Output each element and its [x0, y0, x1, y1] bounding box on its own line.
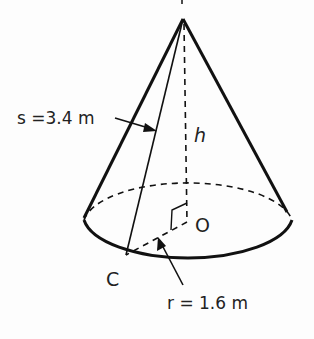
radius-line — [126, 222, 187, 255]
base-ellipse-front — [84, 220, 292, 258]
radius-arrow-shaft — [162, 245, 183, 285]
slant-label: s =3.4 m — [17, 108, 95, 128]
cone-diagram: s =3.4 m h O C r = 1.6 m — [0, 0, 314, 339]
height-label: h — [194, 124, 206, 146]
radius-label: r = 1.6 m — [167, 293, 248, 313]
base-point-label: C — [106, 268, 119, 290]
height-line — [184, 24, 187, 222]
slant-height-line — [126, 19, 183, 255]
base-ellipse-back — [84, 183, 292, 220]
slant-arrowhead-icon — [143, 123, 157, 132]
center-label: O — [195, 214, 210, 236]
right-angle-marker — [171, 203, 187, 230]
cone-left-edge — [84, 19, 183, 218]
